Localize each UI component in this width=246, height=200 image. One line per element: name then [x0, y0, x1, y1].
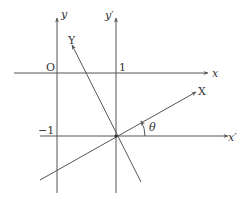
origin-label: O [46, 61, 55, 74]
y-prime-axis-label: y′ [104, 9, 114, 22]
X-axis-label: X [198, 85, 206, 98]
y-axis-label: y [60, 8, 68, 21]
theta-label: θ [149, 121, 156, 134]
x-prime-axis-label: x′ [228, 131, 237, 144]
x-axis-label: x [212, 67, 219, 80]
coordinate-diagram: y y′ x x′ X Y O 1 −1 θ [0, 0, 246, 200]
intersection-point [114, 134, 117, 137]
tick-one-label: 1 [119, 61, 126, 74]
diagram-svg: y y′ x x′ X Y O 1 −1 θ [0, 0, 246, 200]
tick-minus-one-label: −1 [38, 124, 54, 137]
Y-rotated-axis [72, 45, 141, 182]
Y-axis-label: Y [67, 34, 76, 47]
